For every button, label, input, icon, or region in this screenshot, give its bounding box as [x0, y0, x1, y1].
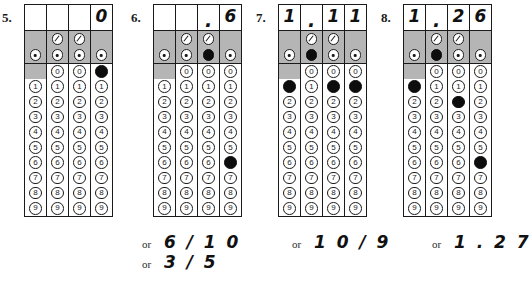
digit-cell[interactable]: 1 [46, 79, 68, 94]
digit-cell[interactable]: 8 [447, 186, 469, 201]
digit-cell[interactable]: 8 [469, 186, 491, 201]
digit-cell[interactable]: 9 [300, 201, 322, 216]
write-in-box[interactable] [154, 5, 175, 30]
write-in-box[interactable]: . [197, 5, 219, 30]
digit-bubble-3[interactable]: 3 [327, 111, 340, 124]
digit-bubble-4[interactable]: 4 [430, 126, 443, 139]
digit-bubble-3[interactable]: 3 [95, 111, 108, 124]
digit-cell[interactable]: 4 [46, 125, 68, 140]
digit-bubble-3[interactable]: 3 [73, 111, 86, 124]
digit-bubble-0[interactable]: 0 [474, 65, 487, 78]
digit-cell[interactable]: 5 [154, 140, 175, 155]
write-in-row[interactable]: 0 [25, 5, 112, 31]
digit-bubble-3[interactable]: 3 [305, 111, 318, 124]
slash-cell[interactable] [197, 31, 219, 47]
digit-bubble-2[interactable]: 2 [224, 96, 237, 109]
digit-cell[interactable]: 4 [344, 125, 366, 140]
slash-cell[interactable] [322, 31, 344, 47]
digit-bubble-0[interactable]: 0 [73, 65, 86, 78]
digit-bubble-0[interactable]: 0 [202, 65, 215, 78]
digit-bubble-9[interactable]: 9 [73, 202, 86, 215]
fraction-slash-bubble[interactable] [328, 33, 339, 44]
digit-bubble-2[interactable]: 2 [29, 96, 42, 109]
digit-cell[interactable]: 2 [344, 94, 366, 109]
digit-cell[interactable]: 2 [25, 94, 46, 109]
digit-cell[interactable]: 0 [425, 64, 447, 79]
digit-bubble-5[interactable]: 5 [305, 141, 318, 154]
digit-bubble-5[interactable]: 5 [224, 141, 237, 154]
digit-cell[interactable]: 9 [279, 201, 300, 216]
digit-cell[interactable]: 5 [25, 140, 46, 155]
decimal-point-bubble[interactable] [74, 49, 85, 60]
digit-bubble-7[interactable]: 7 [452, 172, 465, 185]
digit-row-3[interactable]: 3333 [279, 110, 366, 125]
digit-bubble-8[interactable]: 8 [224, 187, 237, 200]
digit-bubble-7[interactable]: 7 [73, 172, 86, 185]
digit-bubble-4[interactable]: 4 [305, 126, 318, 139]
decimal-point-bubble[interactable] [284, 49, 295, 60]
digit-bubble-7[interactable]: 7 [283, 172, 296, 185]
digit-bubble-6[interactable]: 6 [73, 156, 86, 169]
digit-row-2[interactable]: 2222 [25, 94, 112, 109]
digit-row-4[interactable]: 4444 [404, 125, 491, 140]
decimal-point-row[interactable] [404, 47, 491, 64]
digit-cell[interactable]: 9 [425, 201, 447, 216]
decimal-point-bubble[interactable] [181, 49, 192, 60]
digit-cell[interactable]: 5 [322, 140, 344, 155]
decimal-point-bubble[interactable] [431, 49, 442, 60]
digit-cell[interactable]: 8 [197, 186, 219, 201]
digit-bubble-1[interactable]: 1 [349, 80, 362, 93]
digit-bubble-6[interactable]: 6 [283, 156, 296, 169]
digit-cell[interactable]: 4 [175, 125, 197, 140]
digit-cell[interactable]: 1 [197, 79, 219, 94]
digit-cell[interactable]: 2 [279, 94, 300, 109]
digit-bubble-2[interactable]: 2 [51, 96, 64, 109]
digit-row-7[interactable]: 7777 [279, 170, 366, 185]
digit-bubble-8[interactable]: 8 [73, 187, 86, 200]
decimal-cell[interactable] [90, 47, 112, 63]
slash-cell[interactable] [447, 31, 469, 47]
digit-cell[interactable]: 0 [219, 64, 241, 79]
digit-cell[interactable]: 5 [469, 140, 491, 155]
decimal-point-bubble[interactable] [475, 49, 486, 60]
digit-cell[interactable]: 9 [219, 201, 241, 216]
digit-bubble-1[interactable]: 1 [224, 80, 237, 93]
digit-bubble-7[interactable]: 7 [180, 172, 193, 185]
decimal-point-row[interactable] [279, 47, 366, 64]
digit-cell[interactable]: 2 [425, 94, 447, 109]
decimal-cell[interactable] [46, 47, 68, 63]
digit-bubble-5[interactable]: 5 [349, 141, 362, 154]
decimal-cell[interactable] [404, 47, 425, 63]
digit-cell[interactable]: 5 [425, 140, 447, 155]
digit-row-9[interactable]: 9999 [25, 201, 112, 216]
digit-row-1[interactable]: 1111 [404, 79, 491, 94]
digit-cell[interactable]: 1 [154, 79, 175, 94]
digit-row-0[interactable]: 000 [404, 64, 491, 79]
digit-cell[interactable]: 3 [300, 110, 322, 125]
digit-bubble-2[interactable]: 2 [158, 96, 171, 109]
digit-cell[interactable]: 7 [197, 170, 219, 185]
digit-cell[interactable]: 2 [175, 94, 197, 109]
digit-bubble-5[interactable]: 5 [283, 141, 296, 154]
decimal-point-row[interactable] [25, 47, 112, 64]
digit-row-4[interactable]: 4444 [279, 125, 366, 140]
digit-bubble-8[interactable]: 8 [452, 187, 465, 200]
digit-bubble-6[interactable]: 6 [474, 156, 487, 169]
digit-bubble-7[interactable]: 7 [305, 172, 318, 185]
digit-cell[interactable]: 4 [219, 125, 241, 140]
digit-cell[interactable]: 0 [300, 64, 322, 79]
decimal-point-bubble[interactable] [328, 49, 339, 60]
digit-bubble-6[interactable]: 6 [180, 156, 193, 169]
digit-row-1[interactable]: 1111 [25, 79, 112, 94]
fraction-slash-row[interactable] [404, 31, 491, 47]
digit-bubble-3[interactable]: 3 [430, 111, 443, 124]
digit-row-6[interactable]: 6666 [279, 155, 366, 170]
digit-row-6[interactable]: 6666 [154, 155, 241, 170]
digit-bubble-3[interactable]: 3 [202, 111, 215, 124]
write-in-box[interactable]: 1 [344, 5, 366, 30]
digit-bubble-6[interactable]: 6 [202, 156, 215, 169]
digit-bubble-1[interactable]: 1 [305, 80, 318, 93]
digit-row-9[interactable]: 9999 [404, 201, 491, 216]
digit-cell[interactable]: 8 [404, 186, 425, 201]
decimal-cell[interactable] [197, 47, 219, 63]
